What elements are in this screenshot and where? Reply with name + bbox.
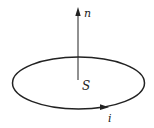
current-loop-diagram: n S i: [0, 0, 154, 128]
surface-label: S: [82, 79, 90, 93]
current-label: i: [108, 112, 112, 125]
normal-label: n: [84, 7, 91, 20]
normal-arrowhead-icon: [75, 7, 80, 16]
current-direction-arrowhead-icon: [100, 104, 109, 110]
